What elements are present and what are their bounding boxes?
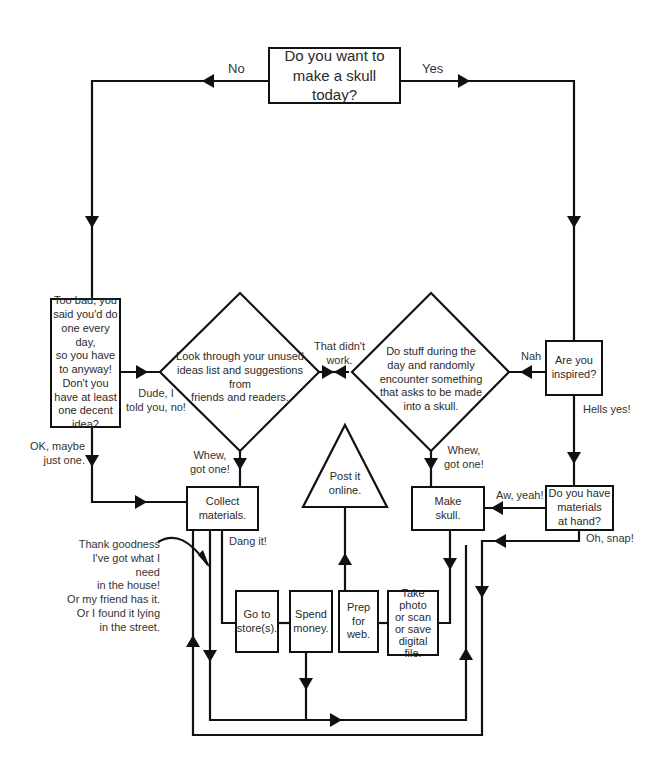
prep-web-line: web. [347,628,370,642]
look-through-line: Look through your unused [165,350,315,364]
too-bad-line: have at least [54,391,116,405]
ok-maybe-line: OK, maybe [30,440,85,454]
inspired-line: Are you [555,354,593,368]
look-through-line: ideas list and suggestions from [165,364,315,392]
too-bad-line: so you have [56,349,115,363]
start-question-box: Do you want to make a skull today? [268,47,401,104]
oh-snap-label: Oh, snap! [586,532,634,546]
hells-yes-label: Hells yes! [583,403,631,417]
do-stuff-line: Do stuff during the [375,345,487,359]
too-bad-box: Too bad, you said you'd do one every day… [50,298,121,428]
branch-yes-label: Yes [422,61,443,77]
materials-line: Do you have [549,487,611,501]
too-bad-line: Don't you [62,377,108,391]
thank-goodness-line: Thank goodness [66,538,160,552]
materials-line: materials [557,501,602,515]
prep-web-line: Prep [347,601,370,615]
take-photo-line: photo [399,599,427,611]
look-through-line: friends and readers. [165,391,315,405]
take-photo-line: Take [401,587,424,599]
too-bad-line: said you'd do [53,308,117,322]
look-through-diamond-text: Look through your unused ideas list and … [165,350,315,405]
start-question-line1: Do you want to [270,46,399,66]
do-stuff-line: that asks to be made [375,386,487,400]
thank-goodness-line: Or I found it lying [66,607,160,621]
make-skull-line: skull. [435,509,460,523]
thank-goodness-line: I've got what I need [66,552,160,580]
take-photo-line: or scan [395,611,431,623]
nah-label: Nah [521,350,541,364]
spend-money-line: Spend [295,608,327,622]
start-question-line2: make a skull today? [270,66,399,105]
aw-yeah-label: Aw, yeah! [496,489,544,503]
take-photo-box: Take photo or scan or save digital file. [387,590,439,656]
dang-it-label: Dang it! [229,535,267,549]
whew-left-label: Whew, got one! [190,449,230,477]
thank-goodness-line: Or my friend has it. [66,593,160,607]
whew-line: Whew, [190,449,230,463]
didnt-work-label: That didn't work. [314,340,365,368]
whew-line: Whew, [444,444,484,458]
prep-web-line: for [352,615,365,629]
post-online-line: Post it [315,470,375,484]
spend-money-box: Spend money. [289,590,333,653]
inspired-line: inspired? [552,368,597,382]
do-stuff-diamond-text: Do stuff during the day and randomly enc… [375,345,487,414]
whew-right-label: Whew, got one! [444,444,484,472]
too-bad-line: one every day, [52,322,119,350]
spend-money-line: money. [293,622,328,636]
too-bad-line: to anyway! [59,363,112,377]
go-to-store-box: Go to store(s). [235,590,279,653]
ok-maybe-label: OK, maybe just one. [30,440,85,468]
didnt-work-line: work. [314,354,365,368]
thank-goodness-label: Thank goodness I've got what I need in t… [66,538,160,634]
collect-materials-box: Collect materials. [186,486,259,531]
materials-line: at hand? [558,515,601,529]
post-online-triangle-text: Post it online. [315,470,375,498]
take-photo-line: digital file. [389,635,437,659]
ok-maybe-line: just one. [30,454,85,468]
didnt-work-line: That didn't [314,340,365,354]
branch-no-label: No [228,61,245,77]
dude-label: Dude, I told you, no! [126,387,186,415]
collect-line: Collect [206,495,240,509]
do-stuff-line: encounter something [375,373,487,387]
do-stuff-line: day and randomly [375,359,487,373]
whew-line: got one! [444,458,484,472]
too-bad-line: idea? [72,418,99,432]
prep-for-web-box: Prep for web. [338,590,379,653]
make-skull-line: Make [435,495,462,509]
whew-line: got one! [190,463,230,477]
dude-line: told you, no! [126,401,186,415]
go-store-line: Go to [244,608,271,622]
post-online-line: online. [315,484,375,498]
inspired-box: Are you inspired? [545,340,603,396]
materials-at-hand-box: Do you have materials at hand? [545,485,614,531]
make-skull-box: Make skull. [411,486,485,531]
thank-goodness-line: in the house! [66,579,160,593]
thank-goodness-line: in the street. [66,621,160,635]
collect-line: materials. [199,509,247,523]
go-store-line: store(s). [237,622,277,636]
dude-line: Dude, I [126,387,186,401]
too-bad-line: one decent [58,404,112,418]
do-stuff-line: into a skull. [375,400,487,414]
take-photo-line: or save [395,623,431,635]
too-bad-line: Too bad, you [54,294,117,308]
